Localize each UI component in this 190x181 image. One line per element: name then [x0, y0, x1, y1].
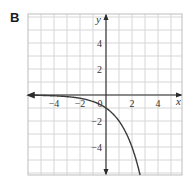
- x-axis-label: x: [175, 95, 181, 107]
- svg-text:4: 4: [156, 98, 161, 109]
- svg-text:2: 2: [130, 98, 135, 109]
- svg-text:−4: −4: [91, 142, 102, 153]
- svg-text:−4: −4: [49, 98, 60, 109]
- y-axis-label: y: [95, 13, 101, 25]
- exponential-graph: −4−202442−2−4 x y: [0, 0, 190, 181]
- svg-text:−2: −2: [91, 116, 102, 127]
- svg-text:2: 2: [97, 64, 102, 75]
- svg-text:4: 4: [97, 38, 102, 49]
